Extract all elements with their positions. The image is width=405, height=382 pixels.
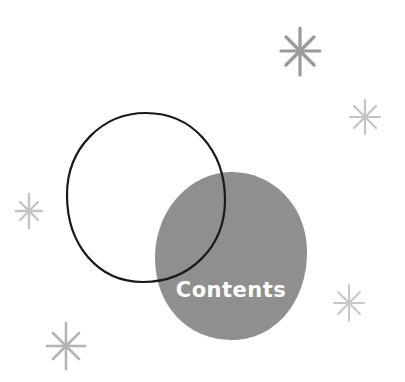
filled-blob-shape xyxy=(155,172,307,340)
sparkle-bottom-right-icon xyxy=(334,285,364,321)
decorative-illustration xyxy=(0,0,405,382)
sparkle-bottom-left-icon xyxy=(47,323,85,369)
sparkle-top-right-icon xyxy=(281,28,320,75)
contents-label[interactable]: Contents xyxy=(155,278,307,302)
sparkle-right-icon xyxy=(350,100,380,134)
sparkle-left-icon xyxy=(16,194,42,228)
